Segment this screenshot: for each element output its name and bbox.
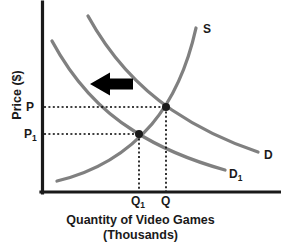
y-axis-title: Price ($) <box>10 57 24 133</box>
x-axis-title-line1: Quantity of Video Games <box>0 213 281 228</box>
equilibrium-points-group <box>135 103 170 138</box>
curve-label-demand-shifted: D1 <box>229 168 242 183</box>
curves-group <box>52 16 258 181</box>
x-axis-title-line2: (Thousands) <box>0 228 281 243</box>
tick-label-quantity-q1: Q1 <box>131 195 145 210</box>
supply-curve <box>57 28 196 181</box>
demand-curve-shifted <box>52 41 225 170</box>
supply-demand-chart: Price ($) P P1 Q1 Q S D D1 Quantity of V… <box>0 0 281 246</box>
x-axis-title: Quantity of Video Games (Thousands) <box>0 213 281 243</box>
equilibrium-point-new <box>135 130 143 138</box>
curve-label-demand: D <box>264 149 273 161</box>
axes-group <box>41 2 281 193</box>
equilibrium-point-original <box>162 103 170 111</box>
curve-label-supply: S <box>203 23 211 35</box>
tick-label-quantity-q: Q <box>161 195 170 207</box>
leftward-shift-arrow <box>90 73 133 96</box>
tick-label-price-p: P <box>26 101 34 113</box>
tick-label-price-p1: P1 <box>24 128 37 143</box>
